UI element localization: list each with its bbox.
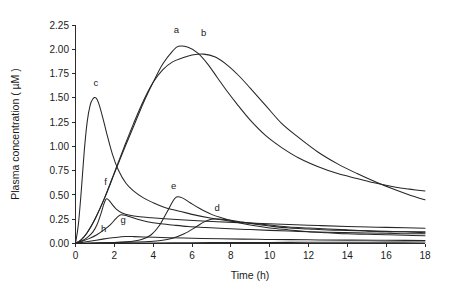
- y-tick-label: 2.00: [50, 44, 70, 55]
- x-axis-title: Time (h): [231, 269, 270, 281]
- curve-label-e: e: [171, 180, 176, 191]
- curve-label-c: c: [94, 77, 99, 88]
- x-tick-label: 6: [189, 250, 195, 261]
- x-tick-label: 12: [303, 250, 315, 261]
- y-tick-label: 1.75: [50, 68, 70, 79]
- x-axis-ticks: 024681012141618: [73, 244, 431, 261]
- curve-label-a: a: [174, 24, 180, 35]
- y-axis-title: Plasma concentration ( µM ): [9, 68, 21, 200]
- curve-a: [76, 46, 426, 243]
- x-tick-label: 16: [381, 250, 393, 261]
- y-tick-label: 1.00: [50, 141, 70, 152]
- x-tick-label: 10: [264, 250, 276, 261]
- x-tick-label: 8: [228, 250, 234, 261]
- y-tick-label: 1.50: [50, 92, 70, 103]
- chart-canvas: 0.000.250.500.751.001.251.501.752.002.25…: [0, 0, 451, 296]
- curve-label-h: h: [101, 223, 106, 234]
- curve-label-group: abcdefgh: [94, 24, 220, 235]
- curve-label-b: b: [201, 27, 206, 38]
- y-tick-label: 2.25: [50, 20, 70, 31]
- x-tick-label: 0: [73, 250, 79, 261]
- x-tick-label: 14: [342, 250, 354, 261]
- y-axis-ticks: 0.000.250.500.751.001.251.501.752.002.25: [50, 20, 76, 250]
- y-tick-label: 0.25: [50, 214, 70, 225]
- curve-label-g: g: [120, 214, 125, 225]
- y-tick-label: 0.75: [50, 165, 70, 176]
- x-tick-label: 2: [112, 250, 118, 261]
- curve-label-d: d: [215, 202, 220, 213]
- curve-group: [76, 46, 426, 243]
- plasma-concentration-figure: 0.000.250.500.751.001.251.501.752.002.25…: [0, 0, 451, 296]
- x-tick-label: 4: [150, 250, 156, 261]
- x-tick-label: 18: [419, 250, 431, 261]
- y-tick-label: 1.25: [50, 117, 70, 128]
- y-tick-label: 0.50: [50, 190, 70, 201]
- curve-c: [76, 97, 426, 243]
- y-tick-label: 0.00: [50, 238, 70, 249]
- curve-label-f: f: [104, 176, 107, 187]
